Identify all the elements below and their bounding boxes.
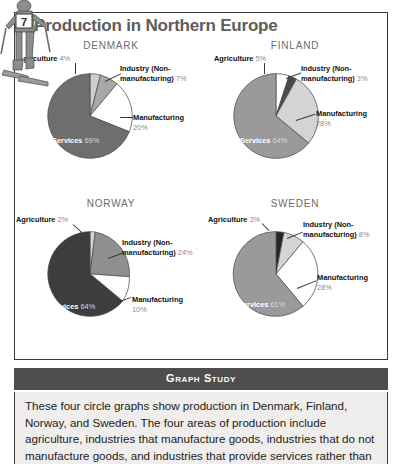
charts-grid: DENMARK Agriculture 4% Industry (Non- ma…: [16, 40, 388, 360]
label-industry-norway: Industry (Non- manufacturing) 24%: [122, 238, 202, 257]
chart-title-finland: FINLAND: [202, 40, 388, 51]
pie-svg-denmark: [44, 70, 136, 162]
chart-finland: FINLAND Agriculture 5% Industry (Non- ma…: [202, 40, 388, 198]
label-industry-denmark: Industry (Non- manufacturing) 7%: [120, 64, 198, 83]
label-services-norway: Services 64%: [48, 302, 95, 311]
label-services-finland: Services 64%: [240, 136, 287, 145]
page-title: Production in Northern Europe: [34, 16, 278, 36]
leader-manufacturing-denmark: [120, 117, 133, 118]
chart-title-denmark: DENMARK: [16, 40, 204, 51]
graph-study-banner: Graph Study: [14, 368, 388, 390]
label-services-sweden: Services 61%: [238, 300, 285, 309]
chart-norway: NORWAY Agriculture 2% Industry (Non- man…: [16, 198, 202, 356]
pie-denmark: [44, 70, 136, 162]
chart-sweden: SWEDEN Agriculture 3% Industry (Non- man…: [202, 198, 388, 356]
graph-study-body: These four circle graphs show production…: [14, 392, 388, 464]
label-agriculture-norway: Agriculture 2%: [16, 215, 68, 225]
leader-agriculture-finland: [264, 63, 265, 74]
graph-study-paragraph: These four circle graphs show production…: [25, 398, 377, 464]
label-agriculture-finland: Agriculture 5%: [214, 54, 266, 64]
label-agriculture-denmark: Agriculture 4%: [18, 54, 70, 64]
label-industry-sweden: Industry (Non- manufacturing) 8%: [303, 220, 387, 239]
graph-study-heading: Graph Study: [14, 372, 388, 384]
label-manufacturing-denmark: Manufacturing 20%: [133, 113, 184, 132]
label-industry-finland: Industry (Non- manufacturing) 3%: [301, 64, 385, 83]
label-manufacturing-sweden: Manufacturing 28%: [317, 273, 368, 292]
chart-title-norway: NORWAY: [16, 198, 204, 209]
chart-denmark: DENMARK Agriculture 4% Industry (Non- ma…: [16, 40, 202, 198]
leader-agriculture-denmark: [75, 63, 76, 74]
label-agriculture-sweden: Agriculture 3%: [208, 215, 260, 225]
chart-title-sweden: SWEDEN: [202, 198, 388, 209]
label-manufacturing-norway: Manufacturing 10%: [132, 295, 183, 314]
label-manufacturing-finland: Manufacturing 28%: [316, 109, 367, 128]
label-services-denmark: Services 69%: [52, 136, 99, 145]
